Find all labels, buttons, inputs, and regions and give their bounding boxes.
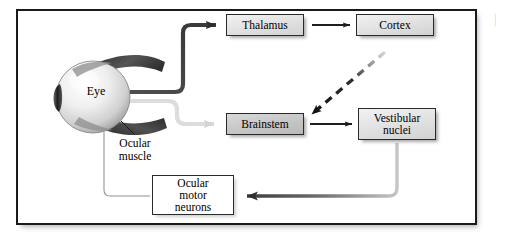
node-brainstem[interactable]: Brainstem — [226, 113, 304, 135]
node-vestibular-nuclei-label: Vestibular nuclei — [372, 112, 423, 136]
node-thalamus-label: Thalamus — [240, 19, 289, 31]
edge-crop-mark: | — [494, 11, 508, 27]
node-thalamus[interactable]: Thalamus — [226, 14, 304, 36]
node-cortex[interactable]: Cortex — [356, 14, 434, 36]
node-ocular-motor-neurons[interactable]: Ocular motor neurons — [152, 175, 234, 215]
ocular-muscle-label: Ocular muscle — [104, 137, 166, 162]
figure-canvas: Thalamus Cortex Brainstem Vestibular nuc… — [0, 0, 510, 244]
node-cortex-label: Cortex — [377, 19, 412, 31]
node-brainstem-label: Brainstem — [239, 118, 290, 130]
node-ocular-motor-neurons-label: Ocular motor neurons — [173, 177, 213, 213]
eye-label: Eye — [74, 85, 118, 98]
node-vestibular-nuclei[interactable]: Vestibular nuclei — [358, 108, 436, 140]
